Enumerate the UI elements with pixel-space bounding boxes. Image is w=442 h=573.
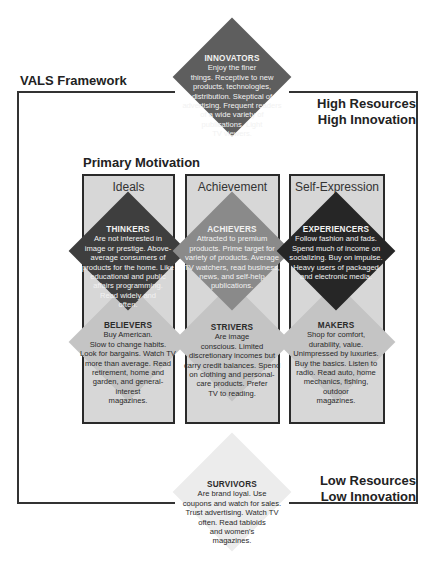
thinkers-line: average consumers of bbox=[76, 253, 180, 262]
thinkers-name: THINKERS bbox=[76, 225, 180, 234]
survivors-line: coupons and watch for sales. bbox=[178, 499, 286, 508]
achievers-line: variety of products. Average bbox=[180, 253, 284, 262]
believers-line: retirement, home and bbox=[76, 368, 180, 377]
makers-name: MAKERS bbox=[284, 321, 388, 330]
experiencers-text: EXPERIENCERS Follow fashion and fads. Sp… bbox=[284, 225, 388, 281]
strivers-line: conscious. Limited bbox=[180, 342, 284, 351]
makers-line: magazines. bbox=[284, 396, 388, 405]
innovators-name: INNOVATORS bbox=[178, 54, 286, 63]
makers-line: outdoor bbox=[284, 387, 388, 396]
experiencers-line: Follow fashion and fads. bbox=[284, 234, 388, 243]
experiencers-line: Spend much of income on bbox=[284, 244, 388, 253]
thinkers-line: image or prestige. Above- bbox=[76, 244, 180, 253]
survivors-line: magazines. bbox=[178, 536, 286, 545]
strivers-line: Are image bbox=[180, 332, 284, 341]
thinkers-line: often. bbox=[76, 300, 180, 309]
high-innovation-label: High Innovation bbox=[317, 112, 416, 128]
believers-text: BELIEVERS Buy American. Slow to change h… bbox=[76, 321, 180, 406]
makers-line: Unimpressed by luxuries. bbox=[284, 349, 388, 358]
thinkers-line: affairs programming. bbox=[76, 281, 180, 290]
corner-high-label: High Resources High Innovation bbox=[317, 96, 416, 128]
thinkers-line: products for the home. Like bbox=[76, 263, 180, 272]
makers-text: MAKERS Shop for comfort, durability, val… bbox=[284, 321, 388, 406]
makers-line: durability, value. bbox=[284, 340, 388, 349]
makers-line: radio. Read auto, home bbox=[284, 368, 388, 377]
innovators-line: things. Receptive to new bbox=[178, 73, 286, 82]
corner-low-label: Low Resources Low Innovation bbox=[320, 473, 416, 505]
achievers-line: publications. bbox=[180, 281, 284, 290]
innovators-line: advertising. Frequent readers bbox=[178, 101, 286, 110]
believers-line: magazines. bbox=[76, 396, 180, 405]
strivers-line: care products. Prefer bbox=[180, 379, 284, 388]
primary-motivation-heading: Primary Motivation bbox=[83, 155, 200, 170]
achievers-line: news, and self-help bbox=[180, 272, 284, 281]
believers-line: Slow to change habits. bbox=[76, 340, 180, 349]
strivers-line: carry credit balances. Spend bbox=[180, 361, 284, 370]
believers-line: more than average. Read bbox=[76, 359, 180, 368]
strivers-line: discretionary incomes but bbox=[180, 351, 284, 360]
believers-line: interest bbox=[76, 387, 180, 396]
thinkers-line: Are not interested in bbox=[76, 234, 180, 243]
survivors-line: and women's bbox=[178, 527, 286, 536]
diagram-title: VALS Framework bbox=[20, 73, 127, 88]
achievers-text: ACHIEVERS Attracted to premium products.… bbox=[180, 225, 284, 291]
survivors-line: Are brand loyal. Use bbox=[178, 489, 286, 498]
thinkers-text: THINKERS Are not interested in image or … bbox=[76, 225, 180, 310]
innovators-line: of a wide variety of bbox=[178, 110, 286, 119]
believers-line: Buy American. bbox=[76, 330, 180, 339]
experiencers-line: Heavy users of packaged bbox=[284, 263, 388, 272]
strivers-line: TV to reading. bbox=[180, 389, 284, 398]
survivors-line: often. Read tabloids bbox=[178, 518, 286, 527]
strivers-text: STRIVERS Are image conscious. Limited di… bbox=[180, 323, 284, 398]
innovators-text: INNOVATORS Enjoy the finer things. Recep… bbox=[178, 54, 286, 139]
makers-line: mechanics, fishing, bbox=[284, 377, 388, 386]
innovators-line: publications. Light bbox=[178, 120, 286, 129]
experiencers-name: EXPERIENCERS bbox=[284, 225, 388, 234]
survivors-line: Trust advertising. Watch TV bbox=[178, 508, 286, 517]
survivors-text: SURVIVORS Are brand loyal. Use coupons a… bbox=[178, 480, 286, 546]
innovators-line: distribution. Skeptical of bbox=[178, 92, 286, 101]
innovators-line: Enjoy the finer bbox=[178, 63, 286, 72]
innovators-line: products, technologies, bbox=[178, 82, 286, 91]
survivors-name: SURVIVORS bbox=[178, 480, 286, 489]
makers-line: Buy the basics. Listen to bbox=[284, 359, 388, 368]
achievers-name: ACHIEVERS bbox=[180, 225, 284, 234]
thinkers-line: educational and public bbox=[76, 272, 180, 281]
experiencers-line: socializing. Buy on impulse. bbox=[284, 253, 388, 262]
strivers-name: STRIVERS bbox=[180, 323, 284, 332]
makers-line: Shop for comfort, bbox=[284, 330, 388, 339]
low-resources-label: Low Resources bbox=[320, 473, 416, 489]
strivers-line: on clothing and personal- bbox=[180, 370, 284, 379]
achievers-line: Attracted to premium bbox=[180, 234, 284, 243]
experiencers-line: and electronic media. bbox=[284, 272, 388, 281]
achievers-line: TV watchers, read business, bbox=[180, 263, 284, 272]
believers-line: garden, and general- bbox=[76, 377, 180, 386]
innovators-line: TV viewers. bbox=[178, 129, 286, 138]
low-innovation-label: Low Innovation bbox=[320, 489, 416, 505]
thinkers-line: Read widely and bbox=[76, 291, 180, 300]
believers-line: Look for bargains. Watch TV bbox=[76, 349, 180, 358]
high-resources-label: High Resources bbox=[317, 96, 416, 112]
achievers-line: products. Prime target for bbox=[180, 244, 284, 253]
believers-name: BELIEVERS bbox=[76, 321, 180, 330]
